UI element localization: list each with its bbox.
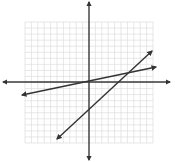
coordinate-plane xyxy=(0,0,175,162)
